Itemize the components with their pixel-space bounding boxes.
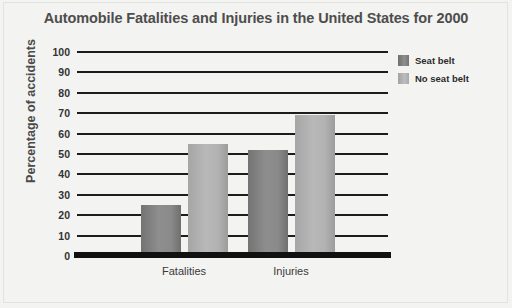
y-tick-label: 50 [44, 149, 70, 159]
gridline [77, 194, 388, 196]
y-tick-label: 70 [44, 108, 70, 118]
gridline [77, 92, 388, 94]
plot-area [77, 52, 388, 256]
bar-fatalities-no-seat-belt [188, 144, 228, 256]
y-tick-label: 100 [44, 47, 70, 57]
y-tick-label: 90 [44, 67, 70, 77]
gridline [77, 51, 388, 53]
legend-label: No seat belt [415, 73, 469, 84]
legend-item-no-seat-belt: No seat belt [398, 73, 506, 84]
y-tick-label: 30 [44, 190, 70, 200]
gridline [77, 133, 388, 135]
gridline [77, 235, 388, 237]
gridline [77, 153, 388, 155]
chart-title: Automobile Fatalities and Injuries in th… [0, 10, 512, 26]
y-axis-tick-labels: 0102030405060708090100 [40, 52, 70, 256]
gridline [77, 173, 388, 175]
bar-fatalities-seat-belt [141, 205, 181, 256]
legend-label: Seat belt [415, 55, 455, 66]
y-tick-label: 40 [44, 169, 70, 179]
y-tick-label: 10 [44, 231, 70, 241]
legend-swatch-icon [398, 73, 409, 84]
y-tick-label: 60 [44, 129, 70, 139]
y-tick-label: 20 [44, 210, 70, 220]
y-tick-label: 80 [44, 88, 70, 98]
y-axis-title: Percentage of accidents [24, 16, 38, 206]
gridline [77, 112, 388, 114]
chart-figure: Automobile Fatalities and Injuries in th… [0, 0, 512, 308]
x-tick-label-injuries: Injuries [231, 265, 351, 277]
x-tick-label-fatalities: Fatalities [124, 265, 244, 277]
legend-item-seat-belt: Seat belt [398, 55, 506, 66]
chart-legend: Seat beltNo seat belt [398, 55, 506, 91]
legend-swatch-icon [398, 55, 409, 66]
bar-injuries-no-seat-belt [295, 115, 335, 256]
x-axis-line [74, 252, 391, 258]
gridline [77, 214, 388, 216]
y-tick-label: 0 [44, 251, 70, 261]
gridline [77, 71, 388, 73]
bar-injuries-seat-belt [248, 150, 288, 256]
